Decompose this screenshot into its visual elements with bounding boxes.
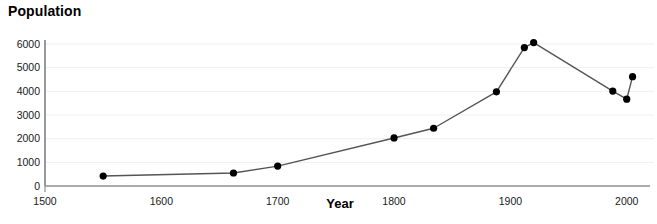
x-axis-tick-label: 1700 <box>266 195 290 207</box>
data-point-marker <box>609 88 616 95</box>
data-point-marker <box>100 172 107 179</box>
y-axis-tick-label: 4000 <box>17 85 41 97</box>
data-point-marker <box>623 96 630 103</box>
x-axis-tick-label: 1600 <box>150 195 174 207</box>
x-axis-tick-label: 2000 <box>615 195 639 207</box>
y-axis-tick-label: 2000 <box>17 132 41 144</box>
data-point-marker <box>530 39 537 46</box>
data-point-marker <box>430 125 437 132</box>
y-axis-tick-label: 1000 <box>17 156 41 168</box>
x-axis-title: Year <box>326 196 353 211</box>
chart-plot-area: 0100020003000400050006000 15001600170018… <box>0 0 657 224</box>
y-axis-tick-label: 5000 <box>17 61 41 73</box>
data-point-marker <box>493 88 500 95</box>
y-axis-tick-label: 6000 <box>17 38 41 50</box>
data-point-marker <box>274 163 281 170</box>
x-axis-tick-label: 1800 <box>382 195 406 207</box>
data-point-marker <box>230 169 237 176</box>
x-axis-tick-label: 1500 <box>33 195 57 207</box>
chart-axes <box>45 40 650 192</box>
data-point-markers <box>100 39 637 180</box>
y-axis-tick-labels: 0100020003000400050006000 <box>17 38 41 192</box>
horizontal-gridlines <box>45 44 654 162</box>
population-line-chart: Population 0100020003000400050006000 150… <box>0 0 657 224</box>
y-axis-tick-label: 3000 <box>17 109 41 121</box>
x-axis-tick-label: 1900 <box>499 195 523 207</box>
data-series-line <box>103 43 632 176</box>
data-point-marker <box>629 73 636 80</box>
data-point-marker <box>390 134 397 141</box>
data-point-marker <box>521 44 528 51</box>
y-axis-tick-label: 0 <box>34 180 40 192</box>
